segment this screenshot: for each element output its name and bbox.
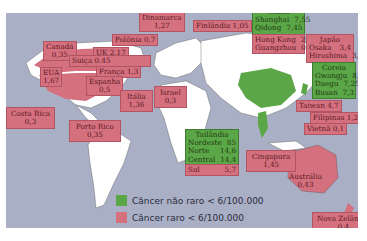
label-tailandia: Tailândia Nordeste85 Norte14,6 Central14… xyxy=(185,129,239,165)
label-coreia: Coreia Gwangju8,75 Daegu7,25 Busan7,3 xyxy=(312,62,356,99)
country-value: 1,27 xyxy=(142,22,182,30)
label-china: China Shanghai7,55 Qidong7,45 xyxy=(252,13,305,35)
label-espanha: Espanha 0,5 xyxy=(86,76,123,96)
label-nova-zelandia: Nova Zelândia 0,4 xyxy=(312,212,358,228)
label-polonia: Polônia 0,7 xyxy=(112,34,158,46)
label-japao: Japão Osaka3,4 Hiroshima3,05 xyxy=(306,34,354,63)
country-value: 0,3 xyxy=(160,97,181,105)
row: Hiroshima3,05 xyxy=(309,52,351,60)
label-tailandia-sul: Sul5,7 xyxy=(185,164,239,176)
country-value: 0,3 xyxy=(11,118,50,126)
country-value: 1,36 xyxy=(127,101,146,109)
legend-item-rare: Câncer raro < 6/100.000 xyxy=(116,212,244,223)
row: Sul5,7 xyxy=(188,166,236,174)
country-value: 1,67 xyxy=(43,77,59,85)
country-value: 1,45 xyxy=(252,161,290,169)
label-israel: Israel 0,3 xyxy=(154,86,187,108)
label-taiwan: Taiwan 4,7 xyxy=(296,100,342,112)
label-italia: Itália 1,36 xyxy=(120,90,153,112)
legend-swatch-green xyxy=(116,195,127,206)
country-value: 0,35 xyxy=(76,131,114,139)
label-eua: EUA 1,67 xyxy=(40,67,62,87)
row: Guangzhou0,97 xyxy=(255,44,302,52)
row: Central14,4 xyxy=(188,156,236,164)
label-costa-rica: Costa Rica 0,3 xyxy=(6,107,55,129)
country-value: 0,4 xyxy=(317,223,358,228)
label-vietna: Vietnã 0,1 xyxy=(304,123,347,135)
label-dinamarca: Dinamarca 1,27 xyxy=(139,13,185,32)
label-hongkong: Hong Kong2,25 Guangzhou0,97 xyxy=(252,34,305,54)
label-porto-rico: Porto Rico 0,35 xyxy=(69,120,121,142)
label-australia: Austrália 0,43 xyxy=(289,173,322,189)
label-finlandia: Finlândia 1,05 xyxy=(193,20,252,32)
world-map: Dinamarca 1,27 Canadá 0,35 Polônia 0,7 U… xyxy=(6,13,358,228)
legend-swatch-red xyxy=(116,212,127,223)
label-cingapura: Cingapura 1,45 xyxy=(246,150,296,172)
row: Qidong7,45 xyxy=(255,24,302,32)
row: Busan7,3 xyxy=(315,89,353,97)
country-value: 0,5 xyxy=(89,86,120,94)
legend-item-common: Câncer não raro < 6/100.000 xyxy=(116,195,264,206)
